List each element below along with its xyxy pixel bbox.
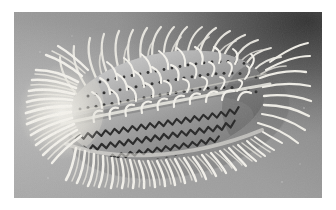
- micrograph-canvas: [14, 12, 322, 198]
- micrograph-plate: [14, 12, 322, 198]
- film-grain: [14, 12, 322, 198]
- figure-page: [0, 0, 336, 210]
